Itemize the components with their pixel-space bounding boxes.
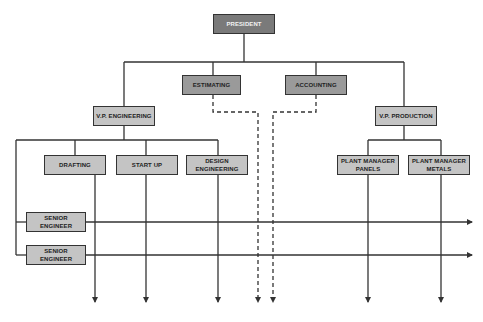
president-label: PRESIDENT (226, 20, 261, 28)
accounting-label: ACCOUNTING (295, 81, 337, 89)
estimating-box: ESTIMATING (182, 75, 241, 95)
vp-engineering-box: V.P. ENGINEERING (93, 106, 155, 126)
president-box: PRESIDENT (213, 14, 275, 34)
senior-engineer-1-label: SENIOR ENGINEER (40, 214, 72, 230)
estimating-dashed-arrow (213, 95, 258, 302)
start-up-box: START UP (116, 155, 178, 175)
senior-engineer-2-label: SENIOR ENGINEER (40, 247, 72, 263)
senior-engineer-2-box: SENIOR ENGINEER (26, 245, 86, 265)
vp-production-box: V.P. PRODUCTION (375, 106, 437, 126)
plant-manager-metals-label: PLANT MANAGER METALS (412, 157, 466, 173)
vp-production-label: V.P. PRODUCTION (379, 112, 433, 120)
drafting-label: DRAFTING (59, 161, 91, 169)
senior-engineer-1-box: SENIOR ENGINEER (26, 212, 86, 232)
design-engineering-label: DESIGN ENGINEERING (195, 157, 238, 173)
accounting-dashed-arrow (273, 95, 316, 302)
drafting-box: DRAFTING (44, 155, 106, 175)
estimating-label: ESTIMATING (193, 81, 231, 89)
plant-manager-panels-label: PLANT MANAGER PANELS (341, 157, 395, 173)
org-chart: PRESIDENT ESTIMATING ACCOUNTING V.P. ENG… (0, 0, 483, 322)
plant-manager-panels-box: PLANT MANAGER PANELS (337, 155, 399, 175)
plant-manager-metals-box: PLANT MANAGER METALS (408, 155, 470, 175)
vp-engineering-label: V.P. ENGINEERING (96, 112, 151, 120)
accounting-box: ACCOUNTING (285, 75, 347, 95)
start-up-label: START UP (132, 161, 162, 169)
design-engineering-box: DESIGN ENGINEERING (186, 155, 248, 175)
